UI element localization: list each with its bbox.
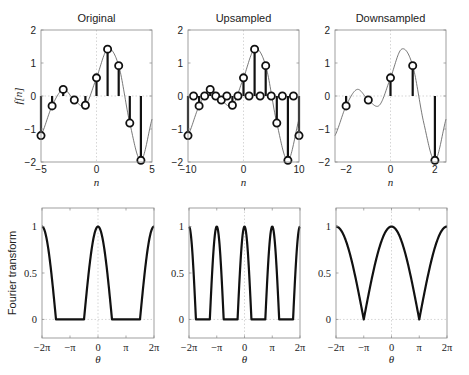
y-tick-label: −1 — [172, 124, 184, 135]
x-tick-label: −5 — [35, 164, 47, 175]
y-tick-label: −1 — [319, 124, 331, 135]
x-tick-label: 5 — [149, 164, 155, 175]
x-tick-label: −2π — [181, 342, 198, 353]
plot-title: Downsampled — [356, 12, 426, 24]
y-tick-label: 1 — [30, 58, 36, 69]
stem-marker — [49, 102, 56, 109]
stem-marker — [207, 86, 214, 93]
stem-marker — [262, 62, 269, 69]
stem-marker — [365, 96, 372, 103]
x-tick-label: −2π — [328, 342, 345, 353]
y-tick-label: 0 — [326, 314, 331, 325]
ft-plot-ft-original: 00.51−2π−π0π2πθFourier transform — [6, 208, 160, 365]
y-tick-label: 2 — [324, 25, 330, 36]
x-tick-label: 0 — [241, 164, 247, 175]
x-axis-label: θ — [389, 353, 395, 365]
x-tick-label: −2π — [34, 342, 51, 353]
x-axis-label: n — [388, 176, 394, 188]
stem-plot-original: −2−1012−505Originalnf[n] — [12, 12, 155, 188]
y-tick-label: 1 — [32, 221, 37, 232]
y-tick-label: 2 — [177, 25, 183, 36]
y-tick-label: 0 — [179, 314, 184, 325]
x-tick-label: −2 — [340, 164, 352, 175]
stem-marker — [115, 62, 122, 69]
x-tick-label: 2π — [442, 342, 453, 353]
x-tick-label: 2π — [295, 342, 306, 353]
stem-marker — [387, 74, 394, 81]
stem-marker — [279, 92, 286, 99]
stem-plot-upsampled: −2−1012−10010Upsampledn — [172, 12, 305, 188]
x-tick-label: 2π — [149, 342, 160, 353]
stem-marker — [60, 86, 67, 93]
y-tick-label: 1 — [177, 58, 183, 69]
figure: −2−1012−505Originalnf[n]−2−1012−10010Ups… — [0, 0, 469, 375]
stem-marker — [290, 92, 297, 99]
y-axis-label: f[n] — [12, 87, 24, 104]
stem-marker — [431, 157, 438, 164]
stem-marker — [71, 96, 78, 103]
stem-marker — [137, 157, 144, 164]
stem-marker — [104, 46, 111, 53]
x-axis-label: θ — [95, 353, 101, 365]
x-tick-label: −π — [211, 342, 223, 353]
y-tick-label: 1 — [326, 221, 331, 232]
stem-marker — [234, 92, 241, 99]
stem-marker — [93, 74, 100, 81]
y-tick-label: 0.5 — [24, 268, 37, 279]
y-tick-label: 0.5 — [171, 268, 184, 279]
x-tick-label: π — [417, 342, 423, 353]
x-tick-label: 0 — [388, 164, 394, 175]
y-tick-label: −1 — [25, 124, 37, 135]
y-tick-label: 0 — [324, 91, 330, 102]
stem-marker — [409, 62, 416, 69]
y-tick-label: 1 — [324, 58, 330, 69]
stem-plot-downsampled: −2−1012−202Downsampledn — [319, 12, 446, 188]
x-tick-label: 2 — [432, 164, 438, 175]
stem-marker — [284, 157, 291, 164]
x-axis-label: n — [241, 176, 247, 188]
ft-plot-ft-downsampled: 00.51−2π−π0π2πθ — [318, 208, 453, 365]
y-axis-label: Fourier transform — [6, 231, 18, 315]
plot-title: Upsampled — [216, 12, 272, 24]
y-tick-label: 0.5 — [318, 268, 331, 279]
stem-marker — [190, 92, 197, 99]
y-tick-label: 2 — [30, 25, 36, 36]
x-axis-label: n — [94, 176, 100, 188]
x-tick-label: 0 — [389, 342, 394, 353]
ft-plot-ft-upsampled: 00.51−2π−π0π2πθ — [171, 208, 306, 365]
y-tick-label: 0 — [30, 91, 36, 102]
stem-marker — [201, 92, 208, 99]
x-tick-label: −10 — [180, 164, 197, 175]
stem-marker — [268, 92, 275, 99]
stem-marker — [229, 102, 236, 109]
y-tick-label: 0 — [177, 91, 183, 102]
x-tick-label: 10 — [293, 164, 305, 175]
y-tick-label: 0 — [32, 314, 37, 325]
stem-marker — [245, 92, 252, 99]
stem-marker — [223, 92, 230, 99]
y-tick-label: −2 — [319, 157, 331, 168]
stem-marker — [273, 119, 280, 126]
x-tick-label: −π — [64, 342, 76, 353]
x-axis-label: θ — [242, 353, 248, 365]
stem-marker — [257, 92, 264, 99]
stem-marker — [196, 102, 203, 109]
stem-marker — [126, 119, 133, 126]
stem-marker — [82, 102, 89, 109]
y-tick-label: 1 — [179, 221, 184, 232]
stem-marker — [251, 46, 258, 53]
x-tick-label: 0 — [95, 342, 100, 353]
x-tick-label: 0 — [94, 164, 100, 175]
x-tick-label: π — [270, 342, 276, 353]
x-tick-label: −π — [358, 342, 370, 353]
stem-marker — [343, 102, 350, 109]
x-tick-label: 0 — [242, 342, 247, 353]
x-tick-label: π — [123, 342, 129, 353]
plot-title: Original — [78, 12, 116, 24]
stem-marker — [240, 74, 247, 81]
